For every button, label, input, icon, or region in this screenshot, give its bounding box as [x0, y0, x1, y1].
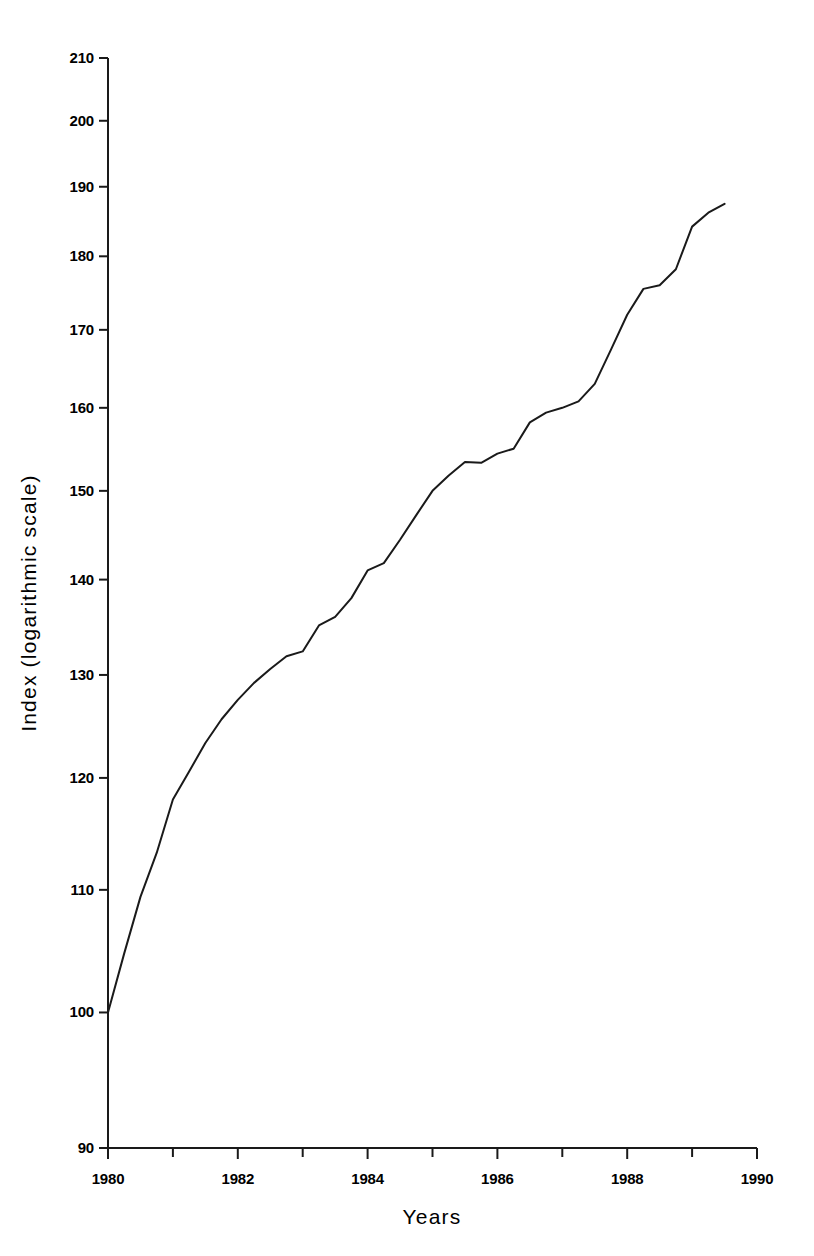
- x-axis-title: Years: [403, 1205, 462, 1228]
- data-series-line: [108, 204, 725, 1013]
- y-tick-label: 190: [70, 178, 94, 195]
- y-tick-label: 130: [70, 666, 94, 683]
- x-tick-label: 1986: [481, 1170, 514, 1187]
- y-tick-label: 140: [70, 571, 94, 588]
- y-tick-label: 90: [78, 1139, 94, 1156]
- y-tick-label: 120: [70, 769, 94, 786]
- y-axis-tick-labels: 90100110120130140150160170180190200210: [70, 49, 94, 1156]
- y-tick-label: 150: [70, 482, 94, 499]
- y-tick-label: 160: [70, 399, 94, 416]
- y-tick-label: 180: [70, 247, 94, 264]
- y-tick-label: 170: [70, 321, 94, 338]
- x-tick-label: 1990: [741, 1170, 774, 1187]
- y-tick-label: 210: [70, 49, 94, 66]
- y-tick-label: 200: [70, 112, 94, 129]
- x-tick-label: 1982: [222, 1170, 255, 1187]
- y-tick-label: 110: [70, 881, 94, 898]
- x-tick-label: 1984: [351, 1170, 384, 1187]
- chart-figure: 90100110120130140150160170180190200210 1…: [0, 0, 814, 1256]
- line-chart: 90100110120130140150160170180190200210 1…: [0, 0, 814, 1256]
- y-tick-label: 100: [70, 1003, 94, 1020]
- x-tick-label: 1980: [92, 1170, 125, 1187]
- x-tick-label: 1988: [611, 1170, 644, 1187]
- x-axis-ticks: [108, 1148, 757, 1159]
- y-axis-ticks: [99, 58, 108, 1148]
- x-axis-tick-labels: 198019821984198619881990: [92, 1170, 774, 1187]
- y-axis-title: Index (logarithmic scale): [17, 474, 40, 732]
